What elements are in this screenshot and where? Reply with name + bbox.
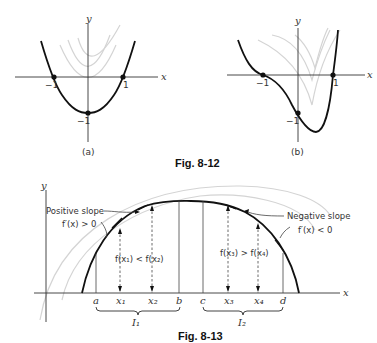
figure-canvas: y x −1 1 −1 (a) y x −1 1 −1 (b) Fig. 8-1… — [0, 0, 377, 343]
tick-neg1-y: −1 — [77, 116, 90, 126]
point-1-0 — [330, 72, 335, 77]
tick-a: a — [93, 295, 99, 306]
tangent-mark — [275, 240, 283, 250]
tick-x3: x₃ — [224, 295, 234, 306]
tick-x4: x₄ — [254, 295, 264, 306]
arrowhead — [118, 286, 122, 292]
brace-i2 — [203, 307, 283, 315]
arrowhead — [150, 286, 154, 292]
x-axis-label: x — [343, 287, 349, 298]
negative-derivative-label: f′(x) < 0 — [298, 225, 333, 235]
y-axis-label: y — [40, 180, 47, 191]
tick-pos1-x: 1 — [333, 78, 339, 88]
leader-negative-2 — [280, 227, 290, 238]
ghost-curve — [68, 35, 110, 66]
tick-neg1-x: −1 — [256, 78, 269, 88]
tick-neg1-x: −1 — [45, 80, 58, 90]
point-0-neg1 — [85, 110, 90, 115]
x-axis-label: x — [161, 71, 167, 82]
arrowhead — [256, 223, 260, 229]
graph-a: y x −1 1 −1 (a) — [15, 13, 167, 157]
inequality-decreasing: f(x₃) > f(x₄) — [220, 248, 269, 258]
arrowhead — [118, 228, 122, 234]
tick-d: d — [280, 295, 286, 306]
brace-i1 — [96, 307, 180, 315]
positive-derivative-label: f′(x) > 0 — [62, 219, 97, 229]
graph-b: y x −1 1 −1 (b) — [227, 15, 373, 157]
caption-fig-8-13: Fig. 8-13 — [178, 330, 223, 342]
subfigure-label-b: (b) — [291, 147, 304, 157]
tick-x1: x₁ — [116, 295, 126, 306]
tick-neg1-y: −1 — [286, 116, 299, 126]
positive-slope-label: Positive slope — [46, 206, 104, 216]
tick-b: b — [176, 295, 182, 306]
interval-i1-label: I₁ — [131, 317, 140, 328]
tick-pos1-x: 1 — [123, 80, 129, 90]
point-1-0 — [120, 74, 125, 79]
x-axis-label: x — [367, 69, 373, 80]
point-neg1-0 — [260, 72, 265, 77]
arrowhead — [256, 286, 260, 292]
ghost-curve — [258, 30, 340, 105]
interval-i2-label: I₂ — [237, 317, 246, 328]
tick-c: c — [200, 295, 206, 306]
y-axis-label: y — [85, 13, 92, 24]
inequality-increasing: f(x₁) < f(x₂) — [115, 254, 164, 264]
arrowhead — [226, 286, 230, 292]
subfigure-label-a: (a) — [82, 147, 95, 157]
negative-slope-label: Negative slope — [287, 211, 350, 221]
point-0-neg1 — [295, 110, 300, 115]
tick-x2: x₂ — [148, 295, 158, 306]
y-axis-label: y — [294, 15, 301, 26]
graph-8-13: y x Positive slope f′(x) > 0 Negative sl… — [34, 180, 350, 328]
point-neg1-0 — [51, 74, 56, 79]
caption-fig-8-12: Fig. 8-12 — [175, 157, 220, 169]
